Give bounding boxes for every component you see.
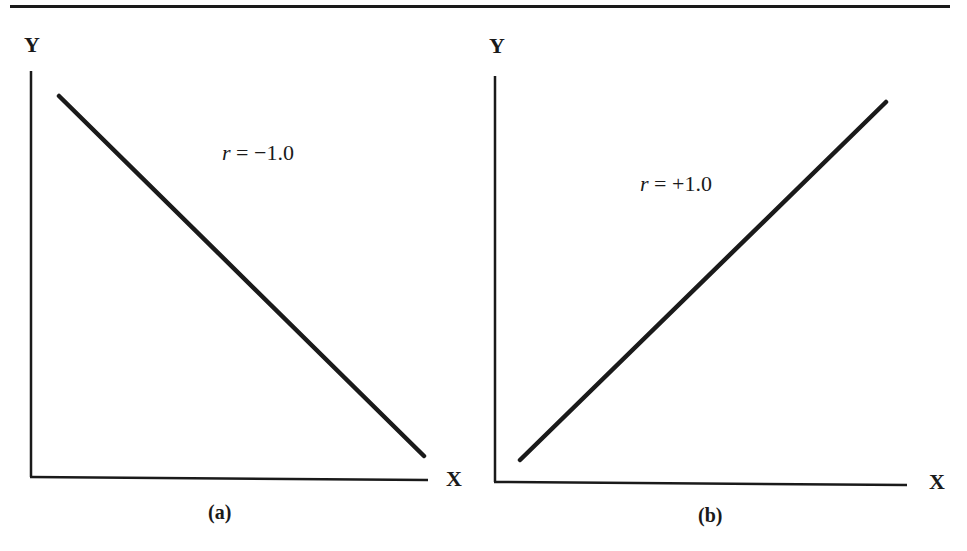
panel-a-y-label: Y (24, 34, 40, 56)
panel-b-caption: (b) (698, 505, 722, 525)
panel-b-regression-line (520, 102, 886, 460)
panel-a-axes (30, 71, 428, 480)
r-symbol: r (222, 140, 231, 165)
r-value: −1.0 (254, 140, 294, 165)
panel-a-x-label: X (446, 468, 462, 490)
panel-b-x-label: X (929, 471, 945, 493)
r-value: +1.0 (672, 171, 712, 196)
equals-sign: = (649, 171, 672, 196)
panel-b-correlation-annotation: r = +1.0 (640, 173, 712, 195)
panel-b-y-label: Y (489, 35, 505, 57)
figure-canvas (0, 0, 967, 551)
panel-a-caption: (a) (208, 502, 231, 522)
panel-a-correlation-annotation: r = −1.0 (222, 142, 294, 164)
r-symbol: r (640, 171, 649, 196)
equals-sign: = (231, 140, 254, 165)
panel-a-x-axis (30, 477, 428, 480)
panel-b-x-axis (494, 482, 907, 485)
